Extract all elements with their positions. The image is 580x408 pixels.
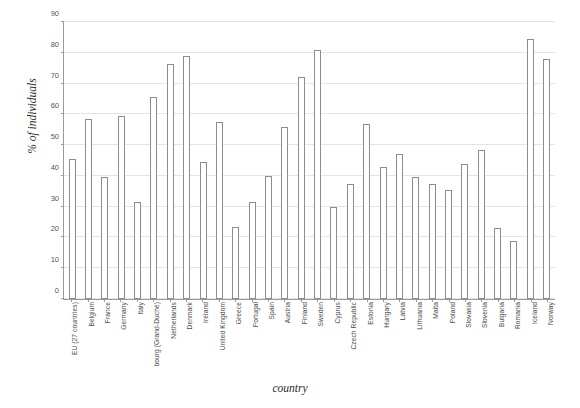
x-axis-label-slot: Romania [506, 302, 522, 380]
x-axis-label-slot: Belgium [79, 302, 95, 380]
bar[interactable] [298, 77, 305, 299]
bar[interactable] [232, 227, 239, 299]
x-axis-tick-label: Romania [514, 302, 521, 329]
y-axis-tick-label: 70 [51, 70, 59, 79]
y-axis-tick-label: 60 [51, 101, 59, 110]
bar-slot [179, 22, 195, 299]
bar-slot [457, 22, 473, 299]
bar[interactable] [265, 176, 272, 299]
bar-slot [391, 22, 407, 299]
bar[interactable] [543, 59, 550, 299]
bar[interactable] [314, 50, 321, 299]
x-axis-tick-label: EU (27 countries) [71, 302, 78, 355]
x-axis-label-slot: Lithuania [408, 302, 424, 380]
x-axis-tick-label: Czech Republic [350, 302, 357, 350]
y-axis-title: % of individuals [26, 46, 38, 186]
bar-slot [293, 22, 309, 299]
y-axis-tick-label: 10 [51, 255, 59, 264]
x-axis-tick-label: Ireland [202, 302, 209, 323]
bar-slot [309, 22, 325, 299]
bar-slot [162, 22, 178, 299]
bar-slot [506, 22, 522, 299]
bar[interactable] [118, 116, 125, 299]
bar[interactable] [134, 202, 141, 299]
bar[interactable] [412, 177, 419, 299]
bar[interactable] [249, 202, 256, 299]
bar[interactable] [281, 127, 288, 299]
x-axis-tick-label: Belgium [88, 302, 95, 327]
x-axis-label-slot: Estonia [358, 302, 374, 380]
x-axis-tick-label: Slovakia [465, 302, 472, 328]
bar[interactable] [363, 124, 370, 299]
x-axis-label-slot: Iceland [522, 302, 538, 380]
plot-area: 0102030405060708090 [63, 22, 555, 300]
y-axis-tick-label: 50 [51, 132, 59, 141]
x-axis-tick-label: Austria [284, 302, 291, 323]
bar-slot [228, 22, 244, 299]
bar-slot [277, 22, 293, 299]
x-axis-label-slot: EU (27 countries) [63, 302, 79, 380]
x-axis-tick-label: Cyprus [334, 302, 341, 324]
x-axis-label-slot: Italy [129, 302, 145, 380]
bar-slot [211, 22, 227, 299]
y-axis-tick-label: 40 [51, 162, 59, 171]
bar-slot [342, 22, 358, 299]
bar[interactable] [167, 64, 174, 299]
x-axis-tick-label: Hungary [383, 302, 390, 328]
bar[interactable] [396, 154, 403, 299]
bar[interactable] [429, 184, 436, 299]
x-axis-label-slot: Denmark [178, 302, 194, 380]
bar[interactable] [150, 97, 157, 299]
x-axis-label-slot: bourg (Grand-Duché) [145, 302, 161, 380]
x-axis-label-slot: Poland [440, 302, 456, 380]
bar-slot [408, 22, 424, 299]
bar[interactable] [183, 56, 190, 299]
bar[interactable] [200, 162, 207, 299]
bar[interactable] [216, 122, 223, 299]
x-axis-label-slot: Bulgaria [490, 302, 506, 380]
bar-slot [440, 22, 456, 299]
x-axis-label-slot: United Kingdom [211, 302, 227, 380]
bar[interactable] [330, 207, 337, 299]
x-axis-label-slot: Greece [227, 302, 243, 380]
x-axis-tick-label: Sweden [317, 302, 324, 326]
x-axis-label-slot: Malta [424, 302, 440, 380]
bar-slot [375, 22, 391, 299]
bar-slot [113, 22, 129, 299]
bar[interactable] [494, 228, 501, 299]
x-axis-tick-label: Iceland [531, 302, 538, 324]
bar[interactable] [510, 241, 517, 299]
bar[interactable] [478, 150, 485, 299]
x-axis-label-slot: Latvia [391, 302, 407, 380]
bar[interactable] [445, 190, 452, 299]
bar[interactable] [461, 164, 468, 299]
x-axis-tick-label: bourg (Grand-Duché) [153, 302, 160, 367]
y-axis-tick-label: 20 [51, 224, 59, 233]
x-axis-tick-label: Netherlands [170, 302, 177, 339]
bar-slot [260, 22, 276, 299]
bar[interactable] [69, 159, 76, 299]
bar-slot [358, 22, 374, 299]
x-axis-tick-label: Denmark [186, 302, 193, 329]
x-axis-tick-label: Germany [120, 302, 127, 330]
bar-slot [326, 22, 342, 299]
x-axis-tick-label: Slovenia [481, 302, 488, 328]
bar-chart-figure: % of individuals 0102030405060708090 EU … [0, 0, 580, 408]
x-axis-tick-label: Italy [137, 302, 144, 315]
x-axis-label-slot: Czech Republic [342, 302, 358, 380]
x-axis-label-slot: Finland [293, 302, 309, 380]
bar-slot [473, 22, 489, 299]
bar-slot [129, 22, 145, 299]
bar-slot [424, 22, 440, 299]
x-axis-tick-label: Portugal [252, 302, 259, 327]
bar[interactable] [85, 119, 92, 299]
bar[interactable] [527, 39, 534, 299]
bar[interactable] [347, 184, 354, 299]
x-axis-tick-label: Finland [301, 302, 308, 324]
x-axis-tick-label: Spain [268, 302, 275, 319]
x-axis-label-slot: Spain [260, 302, 276, 380]
x-axis-label-slot: Norway [539, 302, 555, 380]
bar[interactable] [380, 167, 387, 299]
bar[interactable] [101, 177, 108, 299]
y-axis-tick-label: 90 [51, 9, 59, 18]
